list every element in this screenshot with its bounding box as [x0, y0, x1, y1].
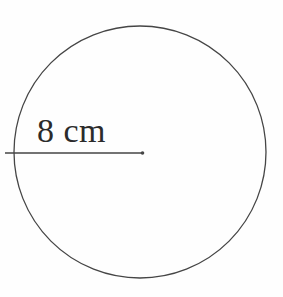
circle-outline	[14, 26, 266, 278]
radius-label: 8 cm	[37, 112, 106, 149]
diagram-canvas: 8 cm	[0, 0, 283, 297]
circle-diagram: 8 cm	[0, 0, 283, 297]
center-point	[141, 151, 145, 155]
